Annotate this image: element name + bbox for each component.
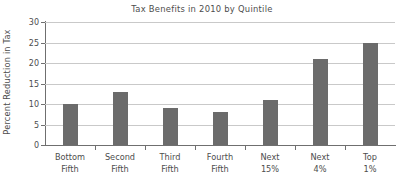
- x-axis-tick-mark: [95, 146, 96, 150]
- x-axis-tick-label: BottomFifth: [45, 152, 95, 175]
- gridline: [45, 43, 395, 44]
- y-axis-tick-mark: [41, 63, 45, 64]
- x-axis-tick-label: ThirdFifth: [145, 152, 195, 175]
- y-axis-tick-label: 25: [0, 38, 39, 47]
- y-axis-tick-label: 20: [0, 59, 39, 68]
- x-axis-tick-mark: [295, 146, 296, 150]
- bar: [363, 43, 378, 146]
- bar-chart: Tax Benefits in 2010 by Quintile Percent…: [0, 0, 404, 185]
- y-axis-tick-label: 15: [0, 79, 39, 88]
- gridline: [45, 104, 395, 105]
- x-axis-tick-mark: [195, 146, 196, 150]
- y-axis-tick-mark: [41, 43, 45, 44]
- y-axis-tick-mark: [41, 84, 45, 85]
- chart-title: Tax Benefits in 2010 by Quintile: [0, 4, 404, 14]
- x-axis-tick-mark: [245, 146, 246, 150]
- x-axis-tick-label: SecondFifth: [95, 152, 145, 175]
- plot-area: [45, 22, 395, 145]
- bar: [313, 59, 328, 145]
- bar: [263, 100, 278, 145]
- y-axis-tick-mark: [41, 145, 45, 146]
- x-axis-tick-mark: [145, 146, 146, 150]
- x-axis-tick-label: Next15%: [245, 152, 295, 175]
- bar: [63, 104, 78, 145]
- gridline: [45, 145, 395, 146]
- gridline: [45, 63, 395, 64]
- y-axis-tick-label: 0: [0, 141, 39, 150]
- gridline: [45, 84, 395, 85]
- bar: [163, 108, 178, 145]
- y-axis-tick-mark: [41, 125, 45, 126]
- y-axis-tick-mark: [41, 104, 45, 105]
- y-axis-tick-label: 5: [0, 120, 39, 129]
- y-axis-tick-label: 10: [0, 100, 39, 109]
- y-axis-tick-mark: [41, 22, 45, 23]
- x-axis-tick-label: Top1%: [345, 152, 395, 175]
- bar: [113, 92, 128, 145]
- bar: [213, 112, 228, 145]
- gridline: [45, 22, 395, 23]
- x-axis-tick-labels: BottomFifthSecondFifthThirdFifthFourthFi…: [45, 152, 395, 182]
- y-axis-tick-labels: 051015202530: [0, 0, 39, 185]
- x-axis-tick-label: Next4%: [295, 152, 345, 175]
- x-axis-tick-label: FourthFifth: [195, 152, 245, 175]
- y-axis-tick-label: 30: [0, 18, 39, 27]
- x-axis-tick-mark: [345, 146, 346, 150]
